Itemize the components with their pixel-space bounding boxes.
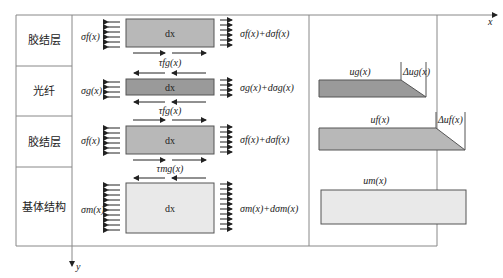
delta-label-adhesive: Δuf(x) bbox=[437, 114, 463, 126]
x-axis-label: x bbox=[487, 16, 493, 27]
element-adhesive-bottom: σf(x) dx σf(x)+dσf(x) bbox=[81, 126, 290, 154]
element-dx-label: dx bbox=[165, 203, 175, 214]
layer-label-fiber: 光纤 bbox=[33, 84, 55, 98]
sigma-right-label: σf(x)+dσf(x) bbox=[240, 28, 290, 40]
sigma-right-label: σf(x)+dσf(x) bbox=[240, 134, 290, 146]
diagram-canvas: x y 胶结层 光纤 胶结层 基体结构 σf(x) dx σf(x)+dσf(x… bbox=[0, 0, 503, 278]
disp-label-matrix: um(x) bbox=[363, 175, 387, 187]
displacement-adhesive: uf(x) Δuf(x) bbox=[319, 112, 465, 150]
sigma-left-label: σf(x) bbox=[81, 31, 100, 43]
element-fiber: σg(x) dx σg(x)+dσg(x) bbox=[81, 79, 294, 97]
sigma-left-label: σm(x) bbox=[81, 204, 105, 216]
element-matrix: σm(x) dx σm(x)+dσm(x) bbox=[81, 183, 299, 233]
element-dx-label: dx bbox=[165, 28, 175, 39]
y-axis-label: y bbox=[75, 261, 81, 272]
tau-mg-label: τmg(x) bbox=[157, 163, 185, 175]
sigma-left-label: σg(x) bbox=[81, 85, 103, 97]
disp-label-adhesive: uf(x) bbox=[371, 114, 391, 126]
disp-label-fiber: ug(x) bbox=[349, 66, 371, 78]
element-dx-label: dx bbox=[165, 135, 175, 146]
delta-label-fiber: Δug(x) bbox=[402, 66, 431, 78]
element-dx-label: dx bbox=[165, 82, 175, 93]
layer-label-adhesive-bottom: 胶结层 bbox=[28, 135, 61, 149]
x-axis: x bbox=[437, 15, 497, 27]
layer-label-adhesive-top: 胶结层 bbox=[28, 33, 61, 47]
sigma-right-label: σm(x)+dσm(x) bbox=[240, 203, 299, 215]
sigma-left-label: σf(x) bbox=[81, 135, 100, 147]
displacement-matrix: um(x) bbox=[321, 175, 466, 224]
displacement-fiber: ug(x) Δug(x) bbox=[319, 62, 431, 97]
sigma-right-label: σg(x)+dσg(x) bbox=[240, 82, 294, 94]
element-adhesive-top: σf(x) dx σf(x)+dσf(x) bbox=[81, 19, 290, 47]
tau-fg-label-2: τfg(x) bbox=[159, 105, 182, 117]
tau-fg-label: τfg(x) bbox=[159, 57, 182, 69]
y-axis: y bbox=[72, 15, 81, 272]
layer-label-matrix: 基体结构 bbox=[22, 200, 66, 214]
